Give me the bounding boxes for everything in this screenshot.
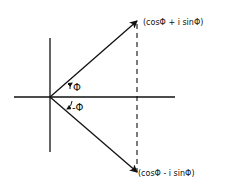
vector-lower xyxy=(50,97,137,172)
angle-arc-positive-icon xyxy=(70,83,72,89)
lower-vector-label: (cosΦ - i sinΦ) xyxy=(138,169,195,178)
upper-vector-label: (cosΦ + i sinΦ) xyxy=(143,18,203,27)
angle-label-positive: Φ xyxy=(73,82,81,93)
angle-label-negative: -Φ xyxy=(72,102,84,113)
phasor-diagram: Φ -Φ (cosΦ + i sinΦ) (cosΦ - i sinΦ) xyxy=(0,0,225,187)
vector-upper xyxy=(50,21,137,97)
